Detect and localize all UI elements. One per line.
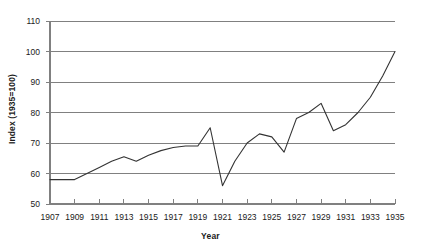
y-tick-label: 110 [10,17,40,26]
data-series-group [50,52,395,186]
y-tick-label: 70 [10,139,40,148]
y-tick-label: 60 [10,170,40,179]
line-chart-plot [0,0,421,247]
y-tick-label: 90 [10,78,40,87]
chart-container: Index (1935=100) Year 1101009080706050 1… [0,0,421,247]
x-tick-label: 1935 [378,213,412,222]
y-tick-label: 80 [10,109,40,118]
y-tick-label: 50 [10,200,40,209]
gridline-group [50,21,395,204]
data-line-series [50,52,395,186]
y-tick-label: 100 [10,48,40,57]
